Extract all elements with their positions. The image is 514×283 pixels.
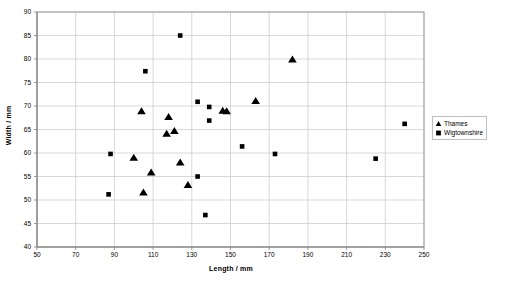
data-point-wigtownshire (195, 99, 200, 104)
data-point-thames (129, 154, 138, 161)
data-point-thames (170, 127, 179, 134)
data-point-thames (251, 97, 260, 104)
data-point-wigtownshire (402, 122, 407, 127)
legend-label-wigtownshire: Wigtownshire (444, 128, 483, 137)
data-point-thames (139, 189, 148, 196)
data-point-wigtownshire (207, 118, 212, 123)
y-axis-title: Width / mm (5, 96, 12, 156)
x-tick-label: 70 (61, 251, 91, 258)
legend-item-wigtownshire: Wigtownshire (435, 128, 483, 137)
data-point-wigtownshire (106, 192, 111, 197)
data-point-wigtownshire (273, 152, 278, 157)
y-tick-label: 50 (13, 196, 31, 203)
data-point-wigtownshire (240, 144, 245, 149)
triangle-marker-icon (435, 119, 442, 128)
data-point-thames (164, 113, 173, 120)
x-tick-label: 190 (293, 251, 323, 258)
y-tick-label: 90 (13, 8, 31, 15)
chart-legend: Thames Wigtownshire (432, 116, 487, 140)
data-point-wigtownshire (178, 33, 183, 38)
data-point-wigtownshire (207, 105, 212, 110)
x-tick-label: 230 (370, 251, 400, 258)
scatter-chart: Length / mm Width / mm 50709011013015017… (0, 0, 514, 283)
x-tick-label: 110 (138, 251, 168, 258)
legend-item-thames: Thames (435, 119, 483, 128)
x-tick-label: 210 (332, 251, 362, 258)
data-point-wigtownshire (203, 213, 208, 218)
data-point-wigtownshire (108, 152, 113, 157)
legend-label-thames: Thames (444, 119, 467, 128)
data-point-thames (184, 181, 193, 188)
y-tick-label: 40 (13, 243, 31, 250)
x-tick-label: 250 (409, 251, 439, 258)
x-tick-label: 150 (216, 251, 246, 258)
y-tick-label: 60 (13, 149, 31, 156)
x-tick-label: 170 (254, 251, 284, 258)
plot-area (0, 0, 514, 283)
x-axis-title: Length / mm (0, 265, 462, 272)
y-tick-label: 65 (13, 126, 31, 133)
y-tick-label: 70 (13, 102, 31, 109)
x-tick-label: 50 (22, 251, 52, 258)
x-tick-label: 90 (99, 251, 129, 258)
y-tick-label: 80 (13, 55, 31, 62)
y-tick-label: 75 (13, 79, 31, 86)
data-point-wigtownshire (195, 174, 200, 179)
y-tick-label: 85 (13, 32, 31, 39)
data-point-wigtownshire (143, 69, 148, 74)
data-point-thames (162, 130, 171, 137)
data-point-thames (137, 107, 146, 114)
y-tick-label: 55 (13, 173, 31, 180)
data-point-thames (176, 159, 185, 166)
square-marker-icon (435, 128, 442, 137)
data-point-thames (147, 168, 156, 175)
data-point-wigtownshire (373, 156, 378, 161)
x-tick-label: 130 (177, 251, 207, 258)
y-tick-label: 45 (13, 220, 31, 227)
